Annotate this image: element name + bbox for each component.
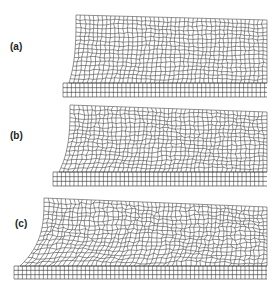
mesh-figure bbox=[0, 0, 277, 294]
